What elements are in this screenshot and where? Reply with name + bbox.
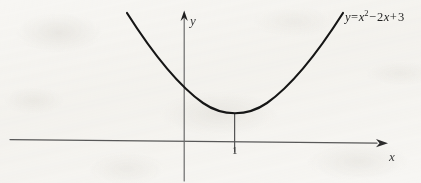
equation-coefficient: 2 [377, 10, 384, 24]
equation-label: y=x2−2x+3 [345, 8, 405, 25]
equation-lhs: y [345, 10, 351, 24]
x-axis [10, 139, 388, 147]
equation-minus: − [368, 10, 376, 24]
x-axis-arrowhead [376, 139, 388, 147]
x-axis-line [10, 140, 377, 144]
x-axis-label: x [389, 150, 395, 163]
y-axis-label: y [190, 14, 196, 27]
equation-constant: 3 [397, 10, 404, 24]
parabola-curve [127, 13, 343, 113]
x-tick-label-1: 1 [232, 145, 238, 156]
parabola-figure: y x 1 y=x2−2x+3 [0, 0, 421, 183]
equation-equals: = [351, 10, 359, 24]
graph-canvas [0, 0, 421, 183]
y-axis [181, 11, 188, 182]
